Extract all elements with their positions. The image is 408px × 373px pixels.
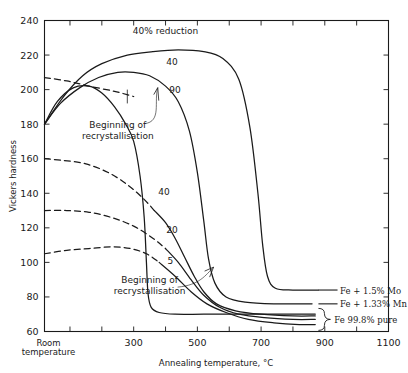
curve-1 (45, 78, 134, 97)
x-tick-label: 300 (125, 337, 143, 348)
curve-label: 40% reduction (133, 26, 199, 36)
x-axis-title: Annealing temperature, °C (159, 358, 273, 368)
x-tick-label: 500 (188, 337, 206, 348)
y-tick-label: 140 (20, 188, 38, 199)
y-tick-label: 180 (20, 119, 38, 130)
annotation-line1: Beginning of (121, 275, 179, 285)
chart-svg: 40% reduction409040205 Beginning ofrecry… (0, 0, 408, 373)
x-tick-label: 900 (316, 337, 334, 348)
y-tick-label: 240 (20, 15, 38, 26)
annotation-leader (145, 88, 158, 124)
curve-label: 20 (166, 225, 178, 235)
annotation-line1: Beginning of (89, 120, 147, 130)
y-tick-label: 120 (20, 222, 38, 233)
data-curves (45, 50, 319, 325)
y-tick-label: 80 (26, 291, 38, 302)
x-tick-label: 700 (252, 337, 270, 348)
curve-6 (45, 210, 166, 248)
curve-label: 5 (167, 256, 173, 266)
curve-2 (45, 72, 313, 304)
y-tick-label: 100 (20, 257, 38, 268)
series-right-labels: Fe + 1.5% MoFe + 1.33% MnFe 99.8% pure (318, 286, 407, 331)
annotation-line2: recrystallisation (114, 286, 186, 296)
y-tick-label: 200 (20, 84, 38, 95)
curve-label: 40 (166, 57, 178, 67)
x-tick-label: 1100 (376, 337, 400, 348)
chart-annotations: Beginning ofrecrystallisationBeginning o… (82, 88, 214, 297)
y-tick-label: 220 (20, 50, 38, 61)
series-label: Fe 99.8% pure (334, 315, 397, 325)
annotation-line2: recrystallisation (82, 131, 154, 141)
series-label: Fe + 1.33% Mn (340, 299, 407, 309)
curve-label: 90 (169, 85, 181, 95)
y-tick-label: 160 (20, 153, 38, 164)
curve-label: 40 (158, 187, 170, 197)
curve-7 (166, 249, 316, 320)
y-tick-label: 60 (26, 326, 38, 337)
curve-labels: 40% reduction409040205 (133, 26, 199, 266)
curve-8 (45, 247, 160, 263)
vickers-hardness-chart: 40% reduction409040205 Beginning ofrecry… (0, 0, 408, 373)
series-brace (318, 308, 330, 330)
y-axis-title: Vickers hardness (8, 139, 18, 212)
series-label: Fe + 1.5% Mo (340, 286, 401, 296)
x-origin-label-line2: temperature (22, 347, 75, 357)
curve-4 (45, 159, 155, 211)
